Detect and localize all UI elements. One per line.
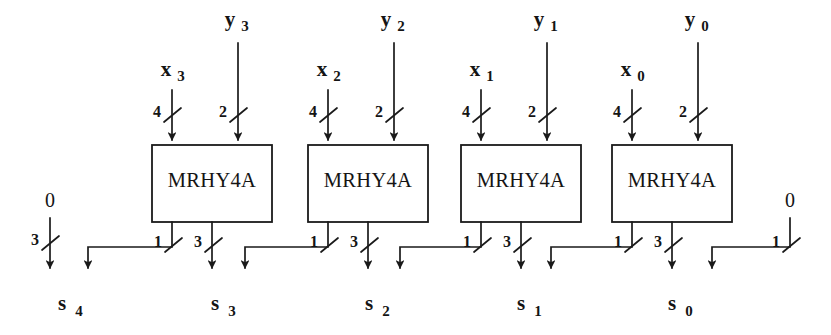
adder-stage-4: MRHY4A x 0 4 y 0 2 1 3	[551, 7, 732, 268]
input-label-x2-sub: 2	[333, 68, 341, 84]
input-label-y2-sub: 2	[397, 18, 405, 34]
input-label-y3-sub: 3	[241, 18, 249, 34]
constant-left-group: 0 3	[31, 189, 59, 268]
diagram-canvas: MRHY4A x 3 4 y 3 2 1 3 MRHY4A	[0, 0, 831, 335]
bus-slash-sum-3	[514, 238, 531, 252]
bus-width-sum-2: 3	[350, 233, 358, 250]
bus-slash-carry-2	[321, 238, 338, 252]
output-label-s2: s 2	[365, 291, 390, 319]
bus-width-constant-right: 1	[772, 233, 780, 250]
output-s1-sub: 1	[534, 303, 542, 319]
input-label-y1-sub: 1	[550, 18, 558, 34]
output-s4-name: s	[58, 291, 66, 315]
bus-width-x1: 4	[462, 103, 470, 120]
input-label-x1-sub: 1	[486, 68, 494, 84]
bus-slash-sum-1	[205, 238, 222, 252]
bus-slash-carry-3	[474, 238, 491, 252]
output-s2-sub: 2	[382, 303, 390, 319]
output-s0-name: s	[668, 291, 676, 315]
output-s1-name: s	[517, 291, 525, 315]
bus-width-carry-3: 1	[463, 233, 471, 250]
output-label-s1: s 1	[517, 291, 542, 319]
output-s2-name: s	[365, 291, 373, 315]
block-label-2: MRHY4A	[324, 169, 412, 191]
block-label-1: MRHY4A	[168, 169, 256, 191]
input-label-y0-sub: 0	[701, 18, 709, 34]
output-label-s0: s 0	[668, 291, 693, 319]
bus-width-sum-3: 3	[503, 233, 511, 250]
bus-width-constant-left: 3	[31, 231, 39, 248]
input-label-y2-name: y	[381, 7, 392, 31]
bus-width-y0: 2	[679, 103, 687, 120]
input-label-x1-name: x	[470, 57, 481, 81]
bus-width-x2: 4	[309, 103, 317, 120]
bus-slash-sum-4	[665, 238, 682, 252]
bus-width-y1: 2	[528, 103, 536, 120]
input-label-y0-name: y	[685, 7, 696, 31]
output-label-s3: s 3	[211, 291, 236, 319]
bus-width-y3: 2	[219, 103, 227, 120]
bus-width-x0: 4	[613, 103, 621, 120]
adder-stage-2: MRHY4A x 2 4 y 2 2 1 3	[245, 7, 428, 268]
output-s4-sub: 4	[75, 303, 83, 319]
adder-stage-3: MRHY4A x 1 4 y 1 2 1 3	[400, 7, 581, 268]
block-label-4: MRHY4A	[628, 169, 716, 191]
input-label-x3-name: x	[161, 57, 172, 81]
bus-slash-carry-1	[165, 238, 182, 252]
bus-width-carry-4: 1	[614, 233, 622, 250]
bus-width-y2: 2	[375, 103, 383, 120]
output-label-s4: s 4	[58, 291, 83, 319]
bus-width-x3: 4	[153, 103, 161, 120]
bus-width-carry-1: 1	[154, 233, 162, 250]
adder-stage-1: MRHY4A x 3 4 y 3 2 1 3	[88, 7, 272, 268]
block-label-3: MRHY4A	[477, 169, 565, 191]
constant-left-value: 0	[45, 189, 55, 211]
bus-width-sum-4: 3	[654, 233, 662, 250]
output-s3-sub: 3	[228, 303, 236, 319]
input-label-x0-name: x	[621, 57, 632, 81]
bus-slash-constant-right	[783, 238, 800, 252]
input-label-x2-name: x	[317, 57, 328, 81]
constant-right-value: 0	[785, 189, 795, 211]
input-label-x3-sub: 3	[177, 68, 185, 84]
output-s3-name: s	[211, 291, 219, 315]
input-label-y1-name: y	[534, 7, 545, 31]
bus-slash-carry-4	[625, 238, 642, 252]
bus-width-sum-1: 3	[194, 233, 202, 250]
bus-slash-sum-2	[361, 238, 378, 252]
output-s0-sub: 0	[685, 303, 693, 319]
input-label-y3-name: y	[225, 7, 236, 31]
input-label-x0-sub: 0	[637, 68, 645, 84]
circuit-diagram: MRHY4A x 3 4 y 3 2 1 3 MRHY4A	[0, 0, 831, 335]
bus-width-carry-2: 1	[310, 233, 318, 250]
